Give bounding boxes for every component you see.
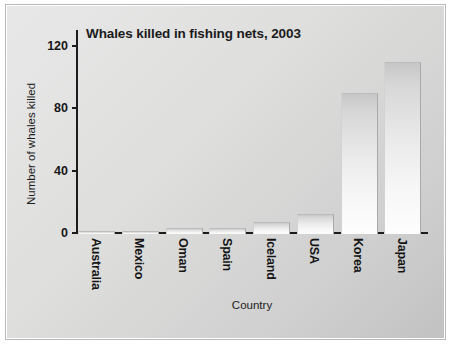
x-axis-title: Country xyxy=(76,299,428,311)
x-axis-category-label: Iceland xyxy=(264,238,278,280)
x-axis-category-label: Mexico xyxy=(132,238,146,279)
bar xyxy=(341,93,378,234)
bar xyxy=(209,228,246,234)
x-axis-category-label: Japan xyxy=(395,238,409,273)
bar-series xyxy=(0,0,451,344)
bar xyxy=(297,214,334,234)
bar xyxy=(122,231,159,234)
x-axis-category-label: Australia xyxy=(89,238,103,290)
chart-plot-area: Whales killed in fishing nets, 2003 0408… xyxy=(0,0,451,344)
x-axis-category-label: USA xyxy=(307,238,321,264)
x-axis-category-label: Oman xyxy=(176,238,190,273)
bar xyxy=(166,228,203,234)
x-axis-category-label: Spain xyxy=(220,238,234,271)
chart-screenshot: Whales killed in fishing nets, 2003 0408… xyxy=(0,0,451,344)
bar xyxy=(253,222,290,234)
x-axis-category-label: Korea xyxy=(351,238,365,272)
bar xyxy=(384,62,421,234)
bar xyxy=(78,231,115,234)
